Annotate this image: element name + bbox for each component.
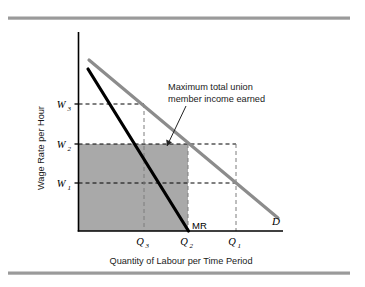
y-tick-label-w3-sub: 3 bbox=[67, 105, 72, 113]
mr-curve-label: MR bbox=[192, 220, 207, 231]
y-tick-label-w3: W bbox=[57, 99, 67, 110]
annotation-line-2: member income earned bbox=[168, 94, 265, 104]
top-divider-rule bbox=[8, 17, 350, 20]
x-tick-label-q3-sub: 3 bbox=[145, 242, 150, 250]
y-tick-label-w2-sub: 2 bbox=[68, 145, 72, 153]
economics-figure: Wage Rate per Hour W 3 W 2 W 1 Q 3 Q 2 Q… bbox=[0, 0, 365, 287]
x-tick-label-q1-sub: 1 bbox=[238, 242, 242, 250]
y-tick-label-w2: W bbox=[57, 139, 67, 150]
bottom-divider-rule bbox=[8, 272, 350, 275]
x-tick-label-q2-sub: 2 bbox=[190, 242, 194, 250]
x-axis-title: Quantity of Labour per Time Period bbox=[110, 256, 253, 266]
demand-curve-label: D bbox=[271, 215, 280, 227]
x-tick-label-q1: Q bbox=[228, 236, 236, 247]
annotation-line-1: Maximum total union bbox=[168, 82, 253, 92]
y-tick-label-w1-sub: 1 bbox=[68, 184, 72, 192]
x-tick-label-q2: Q bbox=[180, 236, 188, 247]
x-tick-label-q3: Q bbox=[136, 236, 144, 247]
y-tick-label-w1: W bbox=[57, 178, 67, 189]
shaded-income-region bbox=[79, 144, 189, 231]
y-axis-title: Wage Rate per Hour bbox=[36, 106, 46, 190]
